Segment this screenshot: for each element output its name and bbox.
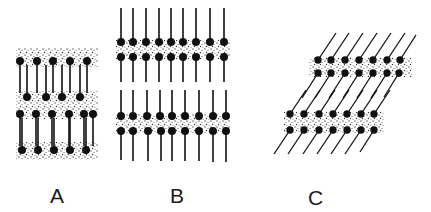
bilayer-diagram [0, 0, 431, 212]
panel-c-label: C [308, 187, 323, 208]
panel-a [16, 48, 98, 160]
panel-a-label: A [50, 185, 64, 206]
panel-b-label: B [170, 185, 184, 206]
panel-b [116, 8, 230, 162]
panel-c [274, 33, 416, 154]
lipid-molecules-b-top [118, 8, 227, 82]
